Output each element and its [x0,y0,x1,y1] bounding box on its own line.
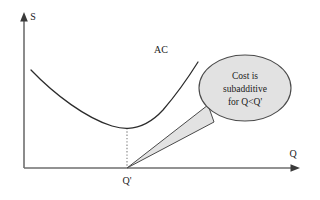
callout-line-1: Cost is [232,71,258,81]
y-axis-label: S [30,11,36,22]
x-axis-arrow-icon [291,164,301,172]
qprime-tick-label: Q' [122,175,131,186]
y-axis-arrow-icon [20,12,28,22]
average-cost-curve [31,62,198,128]
callout-tail [127,105,214,168]
ac-curve-label: AC [154,44,168,55]
diagram-canvas: S Q AC Cost is subadditive for Q<Q' Q' [0,0,320,200]
callout-line-3: for Q<Q' [228,97,263,107]
cost-curve-figure: S Q AC Cost is subadditive for Q<Q' Q' [0,0,320,200]
callout-line-2: subadditive [223,84,267,94]
x-axis-label: Q [289,148,297,159]
